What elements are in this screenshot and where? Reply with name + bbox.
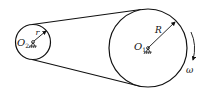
belt-drive-diagram: O2 r O1 R ω	[0, 0, 207, 96]
large-radius-label: R	[154, 25, 162, 35]
angular-velocity-label: ω	[186, 65, 194, 75]
diagram-canvas: O2 r O1 R ω	[0, 0, 207, 96]
rotation-arrow-icon	[191, 32, 195, 60]
